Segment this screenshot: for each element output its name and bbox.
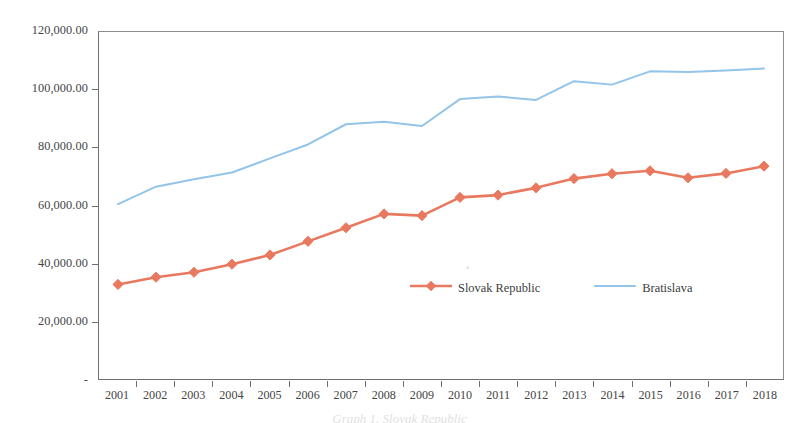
x-axis-tick-mark — [250, 381, 251, 387]
x-axis-tick-label: 2004 — [212, 388, 250, 403]
x-axis-tick-label: 2015 — [632, 388, 670, 403]
y-axis-tick-label: - — [8, 372, 88, 387]
data-point-marker — [341, 223, 351, 233]
x-axis-tick-mark — [365, 381, 366, 387]
x-axis-tick-label: 2007 — [327, 388, 365, 403]
data-point-marker — [379, 209, 389, 219]
legend-line-diamond-icon — [410, 279, 452, 297]
x-axis-tick-mark — [403, 381, 404, 387]
x-axis-tick-mark — [136, 381, 137, 387]
y-axis-tick-label: 120,000.00 — [8, 23, 88, 38]
data-point-marker — [493, 190, 503, 200]
data-point-marker — [645, 166, 655, 176]
data-point-marker — [265, 250, 275, 260]
series-slovak-republic — [113, 161, 769, 289]
data-point-marker — [417, 211, 427, 221]
legend-item-label: Bratislava — [642, 281, 692, 296]
y-axis-tick-label: 20,000.00 — [8, 314, 88, 329]
data-point-marker — [455, 192, 465, 202]
legend-item-slovak-republic[interactable]: Slovak Republic — [410, 279, 540, 297]
x-axis-tick-label: 2001 — [98, 388, 136, 403]
x-axis-tick-mark — [327, 381, 328, 387]
plot-frame — [98, 31, 784, 380]
data-point-marker — [607, 169, 617, 179]
legend-item-bratislava[interactable]: Bratislava — [594, 279, 692, 297]
x-axis-tick-label: 2002 — [136, 388, 174, 403]
x-axis-tick-mark — [670, 381, 671, 387]
data-point-marker — [151, 272, 161, 282]
x-axis-tick-label: 2017 — [708, 388, 746, 403]
x-axis-tick-label: 2008 — [365, 388, 403, 403]
data-point-marker — [189, 267, 199, 277]
data-point-marker — [569, 174, 579, 184]
x-axis-tick-label: 2006 — [289, 388, 327, 403]
x-axis-tick-label: 2005 — [250, 388, 288, 403]
data-point-marker — [721, 168, 731, 178]
y-axis-tick-label: 100,000.00 — [8, 81, 88, 96]
x-axis-tick-mark — [555, 381, 556, 387]
data-point-marker — [113, 279, 123, 289]
x-axis-tick-label: 2003 — [174, 388, 212, 403]
x-axis-tick-mark — [708, 381, 709, 387]
data-point-marker — [303, 236, 313, 246]
series-layer — [99, 32, 783, 379]
x-axis-tick-label: 2009 — [403, 388, 441, 403]
data-point-marker — [227, 259, 237, 269]
x-axis-tick-label: 2012 — [517, 388, 555, 403]
x-axis-tick-label: 2018 — [746, 388, 784, 403]
data-point-marker — [683, 173, 693, 183]
scan-artifact-speck — [466, 266, 469, 269]
data-point-marker — [759, 161, 769, 171]
x-axis-tick-label: 2010 — [441, 388, 479, 403]
chart-legend: Slovak RepublicBratislava — [410, 279, 693, 297]
x-axis-tick-mark — [746, 381, 747, 387]
x-axis-tick-label: 2016 — [670, 388, 708, 403]
series-line — [118, 68, 764, 204]
plot-area — [99, 32, 783, 379]
x-axis-tick-mark — [441, 381, 442, 387]
chart-figure: 120,000.00100,000.0080,000.0060,000.0040… — [0, 0, 799, 423]
x-axis-tick-mark — [632, 381, 633, 387]
x-axis-tick-label: 2013 — [555, 388, 593, 403]
x-axis-tick-mark — [517, 381, 518, 387]
x-axis-tick-label: 2014 — [593, 388, 631, 403]
y-axis-tick-label: 60,000.00 — [8, 198, 88, 213]
series-line — [118, 166, 764, 284]
x-axis-tick-mark — [289, 381, 290, 387]
figure-caption: Graph 1. Slovak Republic — [0, 411, 799, 423]
x-axis-tick-mark — [212, 381, 213, 387]
y-axis-tick-label: 40,000.00 — [8, 256, 88, 271]
x-axis-tick-mark — [593, 381, 594, 387]
series-bratislava — [118, 68, 764, 204]
legend-line-icon — [594, 279, 636, 297]
y-axis-tick-label: 80,000.00 — [8, 139, 88, 154]
data-point-marker — [531, 183, 541, 193]
x-axis-tick-mark — [479, 381, 480, 387]
legend-item-label: Slovak Republic — [458, 281, 540, 296]
x-axis-tick-mark — [174, 381, 175, 387]
x-axis-tick-label: 2011 — [479, 388, 517, 403]
